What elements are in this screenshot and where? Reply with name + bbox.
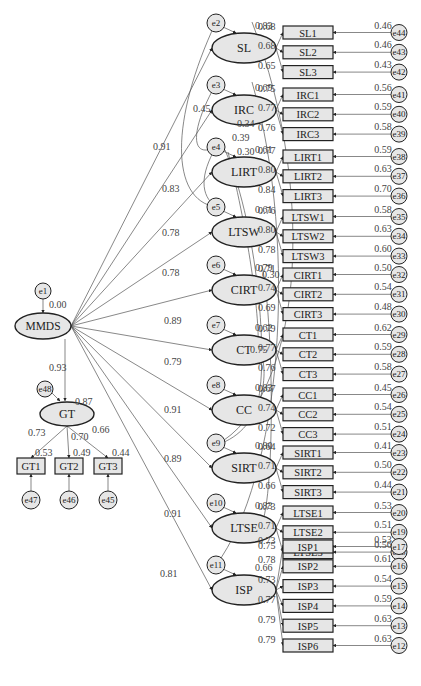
indicator-sl1[interactable]: SL1 [283,26,333,39]
indicator-isp1[interactable]: ISP1 [283,540,333,553]
error-e37-label: e37 [393,171,406,181]
error-e6[interactable]: e6 [207,256,225,274]
indicator-gt3[interactable]: GT3 [94,458,122,474]
error-e17[interactable]: e17 [391,539,407,555]
indicator-cirt1[interactable]: CIRT1 [283,268,333,281]
indicator-cc3[interactable]: CC3 [283,428,333,441]
latent-ltse-label: LTSE [230,521,258,535]
loading-isp6: 0.79 [258,634,276,645]
error-e3[interactable]: e3 [207,76,225,94]
indicator-sl3[interactable]: SL3 [283,66,333,79]
indicator-lirt1[interactable]: LIRT1 [283,150,333,163]
indicator-ct1[interactable]: CT1 [283,328,333,341]
error-e48[interactable]: e48 [37,381,53,397]
indicator-ltse2[interactable]: LTSE2 [283,526,333,539]
indicator-irc1[interactable]: IRC1 [283,88,333,101]
error-e46[interactable]: e46 [60,491,78,509]
indicator-cc1[interactable]: CC1 [283,388,333,401]
indicator-ltsw3[interactable]: LTSW3 [283,250,333,263]
loading-isp3: 0.73 [258,574,276,585]
error-e21[interactable]: e21 [391,484,407,500]
error-e4[interactable]: e4 [207,138,225,156]
indicator-sirt3[interactable]: SIRT3 [283,486,333,499]
error-e19[interactable]: e19 [391,524,407,540]
indicator-cc2[interactable]: CC2 [283,408,333,421]
error-e23[interactable]: e23 [391,445,407,461]
indicator-ltsw2[interactable]: LTSW2 [283,230,333,243]
indicator-isp2[interactable]: ISP2 [283,560,333,573]
error-e28[interactable]: e28 [391,346,407,362]
error-e26[interactable]: e26 [391,387,407,403]
error-e41[interactable]: e41 [391,87,407,103]
latent-lirt-label: LIRT [231,165,258,179]
error-e21-label: e21 [393,487,406,497]
indicator-lirt3[interactable]: LIRT3 [283,190,333,203]
error-e47[interactable]: e47 [22,491,40,509]
error-e36[interactable]: e36 [391,188,407,204]
indicator-isp3[interactable]: ISP3 [283,580,333,593]
error-e29-label: e29 [393,330,406,340]
indicator-isp4[interactable]: ISP4 [283,599,333,612]
path-coef-lirt: 0.78 [162,227,180,238]
error-e16[interactable]: e16 [391,558,407,574]
error-e15[interactable]: e15 [391,578,407,594]
error-e37[interactable]: e37 [391,168,407,184]
indicator-sl2[interactable]: SL2 [283,46,333,59]
indicator-sirt2[interactable]: SIRT2 [283,466,333,479]
error-e8[interactable]: e8 [207,376,225,394]
indicator-cirt2[interactable]: CIRT2 [283,288,333,301]
indicator-gt1[interactable]: GT1 [17,458,45,474]
error-e29[interactable]: e29 [391,327,407,343]
indicator-ct3[interactable]: CT3 [283,368,333,381]
error-e45[interactable]: e45 [99,491,117,509]
indicator-isp6[interactable]: ISP6 [283,639,333,652]
error-e36-label: e36 [393,191,406,201]
indicator-isp5[interactable]: ISP5 [283,619,333,632]
error-e28-label: e28 [393,349,406,359]
latent-cc-label: CC [236,403,252,417]
indicator-ltse1[interactable]: LTSE1 [283,506,333,519]
error-e12[interactable]: e12 [391,638,407,654]
error-e38[interactable]: e38 [391,149,407,165]
indicator-ltsw1[interactable]: LTSW1 [283,210,333,223]
r2-ct2: 0.59 [374,341,392,352]
error-e10-label: e10 [210,498,223,508]
indicator-gt2[interactable]: GT2 [55,458,83,474]
error-e7[interactable]: e7 [207,316,225,334]
error-e14[interactable]: e14 [391,598,407,614]
r2-gt1: 0.53 [35,447,53,458]
latent-mmds[interactable]: MMDS [15,313,71,339]
error-e9[interactable]: e9 [207,434,225,452]
error-e34[interactable]: e34 [391,228,407,244]
indicator-sirt1[interactable]: SIRT1 [283,446,333,459]
error-e42[interactable]: e42 [391,64,407,80]
error-e2[interactable]: e2 [207,14,225,32]
error-e24[interactable]: e24 [391,426,407,442]
indicator-lirt2[interactable]: LIRT2 [283,170,333,183]
error-e5[interactable]: e5 [207,198,225,216]
error-e44[interactable]: e44 [391,25,407,41]
loading-ct1: 0.79 [258,323,276,334]
error-e20[interactable]: e20 [391,505,407,521]
indicator-irc3[interactable]: IRC3 [283,128,333,141]
error-e31[interactable]: e31 [391,286,407,302]
indicator-ct2[interactable]: CT2 [283,348,333,361]
error-e13[interactable]: e13 [391,618,407,634]
error-e32[interactable]: e32 [391,267,407,283]
error-e22[interactable]: e22 [391,464,407,480]
indicator-irc2[interactable]: IRC2 [283,108,333,121]
error-e40[interactable]: e40 [391,106,407,122]
error-e35[interactable]: e35 [391,209,407,225]
loading-cc3: 0.72 [258,422,276,433]
error-e10[interactable]: e10 [207,494,225,512]
error-e42-label: e42 [393,67,406,77]
error-e27[interactable]: e27 [391,366,407,382]
error-e11[interactable]: e11 [207,556,225,574]
error-e25[interactable]: e25 [391,406,407,422]
error-e43[interactable]: e43 [391,44,407,60]
error-e1[interactable]: e1 [35,283,51,299]
error-e30[interactable]: e30 [391,306,407,322]
indicator-cirt3[interactable]: CIRT3 [283,308,333,321]
error-e33[interactable]: e33 [391,248,407,264]
error-e39[interactable]: e39 [391,126,407,142]
